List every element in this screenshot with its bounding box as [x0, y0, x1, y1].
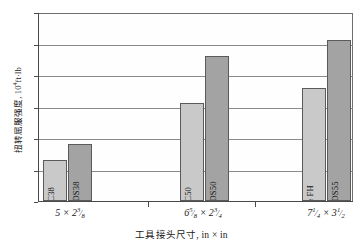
y-axis-title-base: 扭转屈服强度, 10	[13, 86, 23, 154]
x-category-label: 5 × 23⁄8	[20, 207, 120, 220]
y-axis-title: 扭转屈服强度, 104ft·lb	[14, 30, 23, 190]
y-axis-title-unit: ft·lb	[13, 67, 23, 82]
y-tick-mark	[34, 202, 38, 203]
bar-bgds38: BGDS38	[68, 144, 92, 201]
bar-5fh: 5½ FH	[302, 88, 326, 201]
x-category-label: 65⁄8 × 23⁄4	[153, 207, 253, 220]
bar-nc38: NC38	[43, 160, 67, 201]
x-category-separator-tick	[148, 202, 149, 207]
bar-label: BGDS50	[209, 181, 218, 201]
bar-bgds55: BGDS55	[327, 40, 351, 201]
bar-label: BGDS55	[331, 181, 340, 201]
bar-label: NC38	[47, 186, 56, 201]
x-category-separator-tick	[255, 202, 256, 207]
plot-area: NC38BGDS38NC50BGDS505½ FHBGDS55	[38, 13, 353, 202]
bar-nc50: NC50	[180, 103, 204, 201]
gridline	[39, 76, 353, 77]
bar-bgds50: BGDS50	[205, 56, 229, 201]
gridline	[39, 45, 353, 46]
bar-label: 5½ FH	[306, 185, 315, 201]
bar-label: BGDS38	[72, 181, 81, 201]
y-axis-title-exponent: 4	[12, 82, 18, 85]
plot-top-border	[39, 13, 353, 14]
x-axis-title: 工具接头尺寸, in × in	[0, 231, 363, 241]
bar-label: NC50	[184, 186, 193, 201]
torsional-yield-strength-bar-chart: 扭转屈服强度, 104ft·lb 121086420 NC38BGDS38NC5…	[0, 0, 363, 250]
x-category-label: 71⁄4 × 31⁄2	[276, 207, 363, 220]
